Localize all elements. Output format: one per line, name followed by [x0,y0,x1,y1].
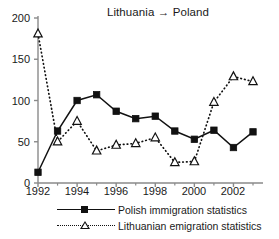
data-point [172,128,178,134]
data-point [74,97,80,103]
data-point [230,144,236,150]
data-point [133,115,139,121]
chart-figure: Lithuania → Poland 200 150 100 50 0 1992… [0,0,279,239]
data-point [229,72,237,80]
data-point [152,113,158,119]
legend-sample-dotted-triangle [57,219,115,233]
data-point [93,92,99,98]
chart-axes [34,16,263,187]
data-point [73,116,81,124]
data-point [190,157,198,165]
series-2 [34,29,257,166]
legend-label: Lithuanian emigration statistics [118,221,262,232]
data-point [35,169,41,175]
legend-label: Polish immigration statistics [118,205,247,216]
data-point [191,136,197,142]
data-point [250,129,256,135]
series-line [38,34,253,163]
data-point [249,77,257,85]
chart-legend: Polish immigration statistics Lithuanian… [0,202,279,234]
data-point [210,97,218,105]
chart-series-layer [34,29,257,176]
open-triangle-icon [80,221,90,229]
series-1 [35,92,256,176]
legend-sample-solid-square [57,203,115,217]
data-point [92,146,100,154]
data-point [211,127,217,133]
data-point [151,133,159,141]
filled-square-icon [81,206,88,213]
legend-item-polish-immigration: Polish immigration statistics [0,202,279,218]
legend-item-lithuanian-emigration: Lithuanian emigration statistics [0,218,279,234]
data-point [34,29,42,37]
data-point [113,108,119,114]
series-line [38,95,253,173]
data-point [171,158,179,166]
